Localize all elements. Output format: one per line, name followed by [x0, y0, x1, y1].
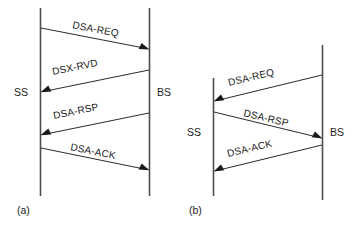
panel-b-actor-label-ss: SS: [187, 126, 201, 138]
panel-a-actor-label-bs: BS: [157, 86, 171, 98]
panel-b-message-2: DSA-RSP: [214, 107, 323, 138]
panel-b-message-2-arrowhead: [312, 132, 323, 139]
panel-a: SS BS DSA-REQ DSX-RVD DSA-RSP: [14, 8, 171, 216]
panel-a-message-4-label: DSA-ACK: [70, 141, 117, 161]
diagram-canvas: SS BS DSA-REQ DSX-RVD DSA-RSP: [0, 0, 358, 230]
panel-a-message-4-arrowhead: [139, 164, 150, 171]
panel-a-message-1: DSA-REQ: [41, 19, 150, 49]
panel-a-message-1-arrowhead: [139, 43, 150, 50]
panel-a-message-2-label: DSX-RVD: [51, 57, 98, 77]
panel-b-message-3: DSA-ACK: [214, 138, 323, 172]
panel-b-message-3-arrowhead: [214, 165, 225, 172]
panel-a-caption: (a): [17, 204, 30, 216]
panel-a-message-3-arrowhead: [41, 129, 52, 136]
panel-a-message-2: DSX-RVD: [41, 57, 150, 92]
panel-b-message-1-label: DSA-REQ: [227, 66, 275, 88]
panel-a-actor-label-ss: SS: [14, 86, 28, 98]
panel-b-caption: (b): [189, 204, 202, 216]
panel-b-message-3-label: DSA-ACK: [226, 138, 273, 159]
panel-b: SS BS DSA-REQ DSA-RSP DSA-ACK (b): [187, 45, 344, 216]
panel-b-message-1: DSA-REQ: [214, 66, 323, 101]
panel-b-actor-label-bs: BS: [330, 126, 344, 138]
panel-a-message-2-arrowhead: [41, 86, 52, 93]
sequence-diagram-figure: SS BS DSA-REQ DSX-RVD DSA-RSP: [0, 0, 358, 230]
panel-b-message-2-label: DSA-RSP: [243, 107, 290, 128]
panel-a-message-3: DSA-RSP: [41, 101, 150, 135]
panel-a-message-4: DSA-ACK: [41, 141, 150, 170]
panel-b-message-1-arrowhead: [214, 95, 225, 102]
panel-a-message-3-label: DSA-RSP: [52, 101, 99, 121]
